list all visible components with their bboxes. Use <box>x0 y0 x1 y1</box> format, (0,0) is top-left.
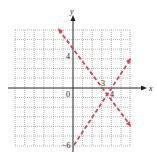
x-tick-3: 3 <box>101 79 105 88</box>
x-axis-arrow-icon <box>141 86 147 91</box>
x-tick-4: 4 <box>110 90 114 99</box>
x-axis-label: x <box>148 84 153 93</box>
graph: x y 0 4 −6 3 4 <box>0 0 157 159</box>
coordinate-plane: x y 0 4 −6 3 4 <box>0 0 157 159</box>
origin-label: 0 <box>66 90 70 99</box>
y-tick-4: 4 <box>66 52 70 61</box>
y-axis-label: y <box>69 7 74 16</box>
y-tick-neg6: −6 <box>62 141 71 150</box>
axes <box>8 18 144 152</box>
line-1-arrow-start-icon <box>58 28 63 34</box>
